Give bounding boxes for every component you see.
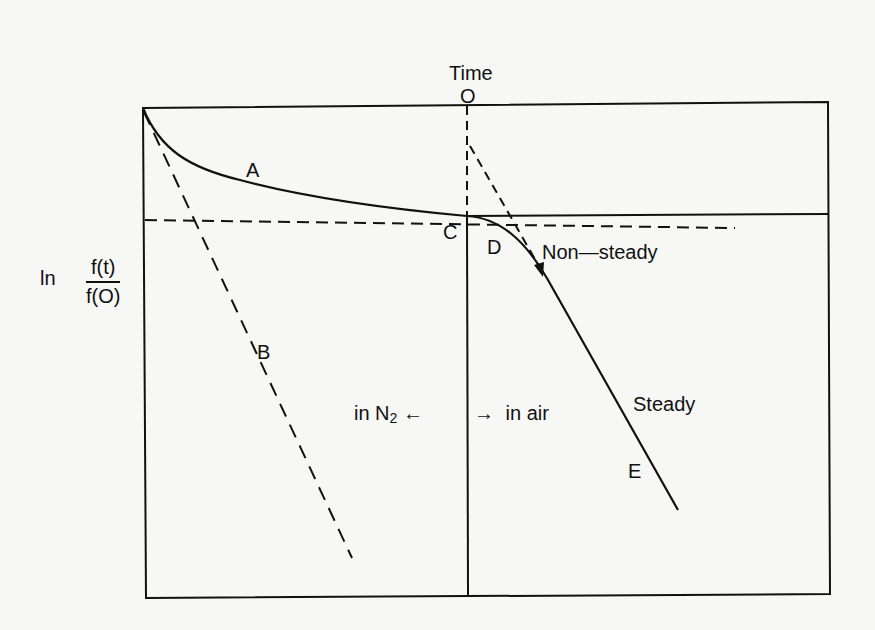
label-in-air: → in air xyxy=(474,403,549,423)
arrow-left-icon: ← xyxy=(403,402,423,424)
y-axis-denominator: f(O) xyxy=(86,283,120,308)
y-axis-fraction: f(t) f(O) xyxy=(86,256,120,308)
diagram-canvas xyxy=(0,0,875,630)
label-a: A xyxy=(246,160,259,180)
tangent-arrow-dashed xyxy=(470,146,540,268)
label-non-steady: Non—steady xyxy=(542,242,658,262)
in-air-text: in air xyxy=(506,402,549,424)
title-time: Time xyxy=(449,63,493,83)
n2-subscript: 2 xyxy=(390,410,398,426)
y-axis-ln: ln xyxy=(40,268,56,288)
label-b: B xyxy=(257,342,270,362)
origin-line-solid xyxy=(467,216,468,596)
label-d: D xyxy=(487,237,501,257)
arrow-right-icon: → xyxy=(474,402,494,424)
reference-line-solid xyxy=(467,214,829,216)
origin-label: O xyxy=(460,86,476,106)
label-e: E xyxy=(628,461,641,481)
label-in-n2: in N2 ← xyxy=(354,403,423,425)
y-axis-numerator: f(t) xyxy=(86,256,120,283)
label-steady: Steady xyxy=(633,394,695,414)
baseline-dashed xyxy=(145,220,735,228)
arrowhead-icon xyxy=(534,262,544,277)
in-n2-text: in N xyxy=(354,402,390,424)
label-c: C xyxy=(443,222,457,242)
curve-a xyxy=(143,108,467,216)
